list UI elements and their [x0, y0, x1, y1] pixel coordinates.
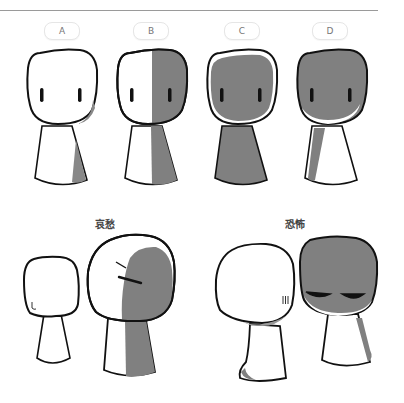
fear-white-figure [216, 244, 294, 381]
sorrow-small-figure [24, 257, 79, 363]
figures-illustration [0, 0, 404, 403]
figure-c [207, 49, 277, 184]
fear-dark-figure [300, 236, 377, 365]
sorrow-large-figure [88, 235, 175, 377]
figure-b [117, 49, 187, 185]
figure-d [297, 49, 367, 184]
figure-a [27, 49, 97, 184]
